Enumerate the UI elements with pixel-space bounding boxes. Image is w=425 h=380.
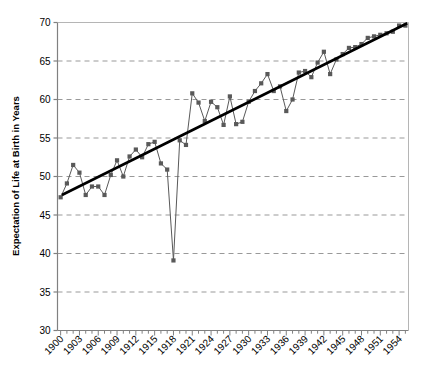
data-point xyxy=(121,174,125,178)
data-point xyxy=(240,120,244,124)
data-point xyxy=(228,94,232,98)
data-point xyxy=(171,258,175,262)
data-point xyxy=(347,46,351,50)
data-point xyxy=(96,184,100,188)
data-point xyxy=(222,123,226,127)
data-point xyxy=(209,100,213,104)
data-point xyxy=(165,167,169,171)
data-point xyxy=(178,138,182,142)
data-point xyxy=(328,72,332,76)
data-point xyxy=(265,72,269,76)
data-point xyxy=(159,161,163,165)
data-point xyxy=(146,142,150,146)
data-point xyxy=(253,89,257,93)
y-tick-label-50: 50 xyxy=(39,171,51,182)
data-point xyxy=(127,154,131,158)
data-point xyxy=(297,70,301,74)
y-tick-label-45: 45 xyxy=(39,210,51,221)
data-point xyxy=(234,122,238,126)
data-point xyxy=(84,193,88,197)
data-point xyxy=(153,140,157,144)
data-point xyxy=(316,60,320,64)
data-point xyxy=(322,50,326,54)
data-point xyxy=(309,75,313,79)
y-axis-tick-labels: 303540455055606570 xyxy=(39,17,51,336)
chart-container: 1900190319061909191219151918192119241927… xyxy=(0,0,425,380)
y-tick-label-35: 35 xyxy=(39,287,51,298)
y-tick-label-60: 60 xyxy=(39,94,51,105)
data-point xyxy=(215,105,219,109)
data-point xyxy=(284,109,288,113)
data-point xyxy=(366,36,370,40)
data-point xyxy=(77,171,81,175)
data-point xyxy=(102,193,106,197)
data-point xyxy=(65,181,69,185)
data-point xyxy=(109,173,113,177)
data-point xyxy=(134,147,138,151)
y-tick-label-65: 65 xyxy=(39,56,51,67)
data-point xyxy=(71,163,75,167)
data-point xyxy=(184,143,188,147)
data-point xyxy=(90,184,94,188)
y-axis-title: Expectation of Life at Birth in Years xyxy=(10,96,21,256)
y-tick-label-55: 55 xyxy=(39,133,51,144)
y-tick-label-30: 30 xyxy=(39,325,51,336)
data-point xyxy=(59,195,63,199)
data-point xyxy=(190,91,194,95)
life-expectancy-line-chart: 1900190319061909191219151918192119241927… xyxy=(0,0,425,380)
data-point xyxy=(196,100,200,104)
y-tick-label-70: 70 xyxy=(39,17,51,28)
data-point xyxy=(290,97,294,101)
data-point xyxy=(259,81,263,85)
data-point xyxy=(115,158,119,162)
y-tick-label-40: 40 xyxy=(39,248,51,259)
